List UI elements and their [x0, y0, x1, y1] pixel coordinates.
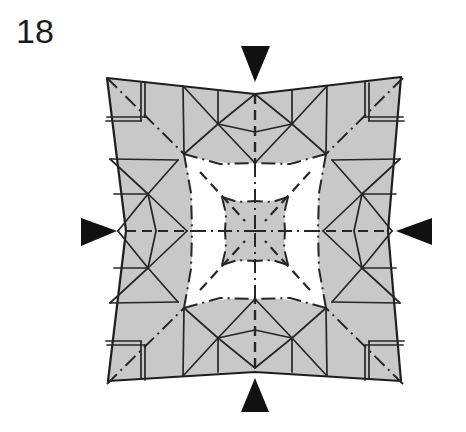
push-arrow-left-icon	[81, 218, 117, 246]
crease	[110, 159, 178, 160]
crease	[183, 308, 184, 376]
crease	[332, 302, 400, 303]
push-arrow-right-icon	[396, 218, 432, 245]
push-arrow-top-icon	[241, 46, 270, 82]
crease	[183, 86, 184, 154]
crease	[326, 308, 327, 376]
crease	[326, 86, 327, 154]
origami-diagram	[0, 0, 466, 432]
crease	[110, 302, 178, 303]
push-arrow-bottom-icon	[241, 378, 269, 412]
crease	[332, 159, 400, 160]
